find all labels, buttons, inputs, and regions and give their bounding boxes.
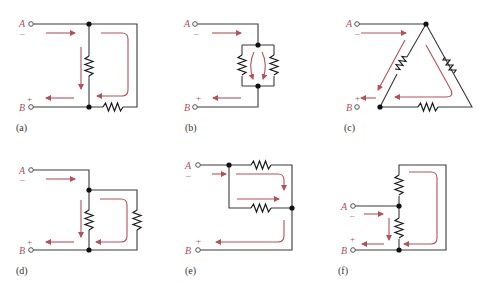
plus-sign: +	[196, 236, 201, 246]
current-arrow-loop	[395, 45, 452, 97]
caption-c: (c)	[344, 122, 355, 134]
current-arrow-loop	[97, 33, 128, 96]
plus-sign: +	[196, 93, 201, 103]
resistor-middle	[85, 210, 93, 230]
node-dot	[377, 104, 382, 109]
terminal-a	[29, 22, 34, 27]
terminal-b	[193, 105, 198, 110]
terminal-b-label: B	[346, 102, 352, 113]
resistor-top	[251, 161, 271, 169]
wire	[33, 76, 103, 107]
plus-sign: +	[350, 234, 355, 244]
current-arrow-loop	[404, 172, 437, 244]
current-arrow	[262, 52, 265, 79]
resistor-bottom	[395, 218, 403, 238]
terminal-b-label: B	[184, 102, 190, 113]
plus-sign: +	[27, 94, 32, 104]
terminal-b	[29, 105, 34, 110]
terminal-a-label: A	[345, 18, 353, 29]
resistor-left-diagonal	[395, 57, 407, 70]
resistor-top	[395, 175, 403, 195]
minus-sign: –	[19, 174, 25, 184]
node-dot	[86, 247, 91, 252]
panel-a: A B – + (a)	[16, 18, 137, 134]
minus-sign: –	[19, 28, 25, 38]
terminal-a	[351, 204, 356, 209]
current-arrow	[251, 52, 254, 79]
panel-d: A B – + (d)	[16, 165, 141, 277]
wire	[229, 165, 292, 208]
resistor-bottom	[251, 204, 271, 212]
terminal-b	[355, 105, 360, 110]
wire	[33, 170, 137, 210]
minus-sign: –	[349, 210, 355, 220]
node-dot	[86, 21, 91, 26]
node-dot	[396, 247, 401, 252]
panel-f: A B – + (f)	[338, 165, 446, 277]
current-arrow	[216, 220, 284, 242]
terminal-a-label: A	[340, 201, 348, 212]
wire-triangle	[380, 24, 472, 107]
minus-sign: –	[354, 28, 360, 38]
wire	[197, 24, 258, 45]
node-dot	[226, 162, 231, 167]
terminal-b-label: B	[341, 245, 347, 256]
panel-b: A B – + (b)	[183, 18, 278, 134]
terminal-b-label: B	[19, 102, 25, 113]
terminal-b	[196, 248, 201, 253]
caption-b: (b)	[185, 122, 197, 134]
plus-sign: +	[27, 237, 32, 247]
panel-e: A B – + (e)	[184, 160, 295, 277]
terminal-a	[355, 22, 360, 27]
resistor-right-diagonal	[443, 57, 456, 73]
node-dot	[86, 187, 91, 192]
circuit-figure: A B – + (a) A B – + (b)	[0, 0, 484, 292]
current-arrow-loop	[96, 199, 127, 242]
resistor-bottom	[418, 103, 438, 111]
resistor-horizontal	[103, 103, 123, 111]
plus-sign: +	[355, 93, 360, 103]
wire-outer	[33, 24, 137, 107]
node-dot	[255, 83, 260, 88]
minus-sign: –	[193, 28, 199, 38]
terminal-b	[29, 248, 34, 253]
resistor-right	[270, 55, 278, 75]
node-dot	[86, 104, 91, 109]
node-dot	[423, 21, 428, 26]
caption-f: (f)	[338, 265, 348, 277]
terminal-a-label: A	[183, 18, 191, 29]
caption-e: (e)	[185, 265, 196, 277]
minus-sign: –	[185, 170, 191, 180]
terminal-a	[193, 22, 198, 27]
node-dot	[396, 203, 401, 208]
terminal-b-label: B	[185, 245, 191, 256]
caption-d: (d)	[16, 265, 28, 277]
panel-c: A B – + (c)	[344, 18, 472, 134]
node-dot	[255, 42, 260, 47]
caption-a: (a)	[16, 122, 27, 134]
resistor-vertical	[85, 56, 93, 76]
resistor-left	[238, 55, 246, 75]
terminal-b-label: B	[19, 245, 25, 256]
terminal-b	[351, 248, 356, 253]
terminal-a	[196, 163, 201, 168]
resistor-right	[133, 210, 141, 230]
terminal-a	[29, 168, 34, 173]
current-arrow	[236, 174, 284, 190]
node-dot	[289, 205, 294, 210]
wire	[355, 196, 399, 250]
